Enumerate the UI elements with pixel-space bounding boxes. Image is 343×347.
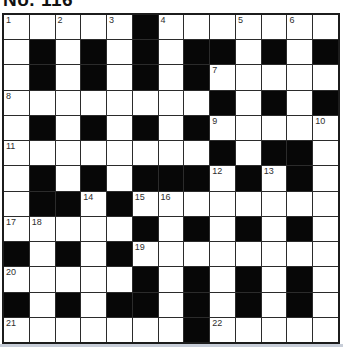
grid-cell[interactable]	[262, 217, 287, 241]
grid-cell[interactable]	[81, 141, 106, 165]
grid-cell[interactable]	[159, 65, 184, 89]
grid-cell[interactable]	[81, 318, 106, 342]
grid-cell[interactable]	[210, 293, 235, 317]
grid-cell[interactable]	[262, 267, 287, 291]
grid-cell[interactable]: 13	[262, 166, 287, 190]
grid-cell[interactable]	[107, 40, 132, 64]
grid-cell[interactable]: 8	[4, 91, 29, 115]
grid-cell[interactable]	[107, 91, 132, 115]
grid-cell[interactable]: 14	[81, 192, 106, 216]
grid-cell[interactable]: 12	[210, 166, 235, 190]
grid-cell[interactable]	[56, 166, 81, 190]
grid-cell[interactable]	[262, 242, 287, 266]
grid-cell[interactable]	[107, 141, 132, 165]
grid-cell[interactable]	[30, 91, 55, 115]
grid-cell[interactable]	[287, 40, 312, 64]
grid-cell[interactable]	[81, 242, 106, 266]
grid-cell[interactable]	[159, 141, 184, 165]
grid-cell[interactable]: 17	[4, 217, 29, 241]
grid-cell[interactable]: 3	[107, 15, 132, 39]
grid-cell[interactable]	[107, 217, 132, 241]
grid-cell[interactable]	[313, 65, 338, 89]
grid-cell[interactable]	[210, 217, 235, 241]
grid-cell[interactable]	[4, 192, 29, 216]
grid-cell[interactable]	[56, 65, 81, 89]
grid-cell[interactable]	[133, 318, 158, 342]
grid-cell[interactable]: 9	[210, 116, 235, 140]
grid-cell[interactable]: 6	[287, 15, 312, 39]
grid-cell[interactable]	[4, 166, 29, 190]
grid-cell[interactable]	[30, 267, 55, 291]
grid-cell[interactable]: 22	[210, 318, 235, 342]
grid-cell[interactable]	[30, 141, 55, 165]
grid-cell[interactable]: 5	[236, 15, 261, 39]
grid-cell[interactable]	[313, 318, 338, 342]
grid-cell[interactable]	[210, 267, 235, 291]
grid-cell[interactable]	[4, 116, 29, 140]
grid-cell[interactable]	[107, 318, 132, 342]
grid-cell[interactable]	[107, 65, 132, 89]
grid-cell[interactable]	[56, 141, 81, 165]
grid-cell[interactable]	[133, 141, 158, 165]
grid-cell[interactable]	[262, 192, 287, 216]
grid-cell[interactable]	[313, 166, 338, 190]
grid-cell[interactable]	[184, 91, 209, 115]
grid-cell[interactable]	[313, 242, 338, 266]
grid-cell[interactable]: 19	[133, 242, 158, 266]
grid-cell[interactable]	[184, 15, 209, 39]
grid-cell[interactable]	[236, 40, 261, 64]
grid-cell[interactable]	[159, 40, 184, 64]
grid-cell[interactable]	[159, 293, 184, 317]
grid-cell[interactable]	[56, 40, 81, 64]
grid-cell[interactable]	[313, 217, 338, 241]
grid-cell[interactable]	[287, 91, 312, 115]
grid-cell[interactable]	[313, 293, 338, 317]
grid-cell[interactable]	[262, 65, 287, 89]
grid-cell[interactable]: 4	[159, 15, 184, 39]
grid-cell[interactable]	[236, 116, 261, 140]
grid-cell[interactable]	[56, 217, 81, 241]
grid-cell[interactable]	[236, 91, 261, 115]
grid-cell[interactable]	[210, 192, 235, 216]
grid-cell[interactable]	[56, 267, 81, 291]
grid-cell[interactable]	[81, 293, 106, 317]
grid-cell[interactable]: 11	[4, 141, 29, 165]
grid-cell[interactable]	[313, 15, 338, 39]
grid-cell[interactable]: 1	[4, 15, 29, 39]
grid-cell[interactable]	[262, 293, 287, 317]
grid-cell[interactable]	[56, 318, 81, 342]
grid-cell[interactable]	[210, 242, 235, 266]
grid-cell[interactable]	[81, 15, 106, 39]
grid-cell[interactable]	[107, 267, 132, 291]
grid-cell[interactable]	[30, 293, 55, 317]
grid-cell[interactable]	[159, 91, 184, 115]
grid-cell[interactable]	[159, 318, 184, 342]
grid-cell[interactable]	[184, 192, 209, 216]
grid-cell[interactable]	[287, 192, 312, 216]
grid-cell[interactable]	[159, 116, 184, 140]
grid-cell[interactable]	[313, 141, 338, 165]
grid-cell[interactable]	[210, 15, 235, 39]
grid-cell[interactable]: 15	[133, 192, 158, 216]
grid-cell[interactable]	[287, 116, 312, 140]
grid-cell[interactable]	[4, 40, 29, 64]
grid-cell[interactable]: 21	[4, 318, 29, 342]
grid-cell[interactable]	[287, 65, 312, 89]
grid-cell[interactable]	[107, 166, 132, 190]
grid-cell[interactable]	[236, 318, 261, 342]
grid-cell[interactable]	[81, 217, 106, 241]
grid-cell[interactable]	[262, 15, 287, 39]
grid-cell[interactable]	[159, 217, 184, 241]
grid-cell[interactable]	[81, 91, 106, 115]
grid-cell[interactable]	[184, 242, 209, 266]
grid-cell[interactable]	[159, 242, 184, 266]
grid-cell[interactable]: 2	[56, 15, 81, 39]
grid-cell[interactable]: 16	[159, 192, 184, 216]
grid-cell[interactable]	[159, 267, 184, 291]
grid-cell[interactable]	[30, 15, 55, 39]
grid-cell[interactable]	[236, 192, 261, 216]
grid-cell[interactable]	[107, 116, 132, 140]
grid-cell[interactable]	[236, 141, 261, 165]
grid-cell[interactable]	[30, 318, 55, 342]
grid-cell[interactable]	[313, 192, 338, 216]
